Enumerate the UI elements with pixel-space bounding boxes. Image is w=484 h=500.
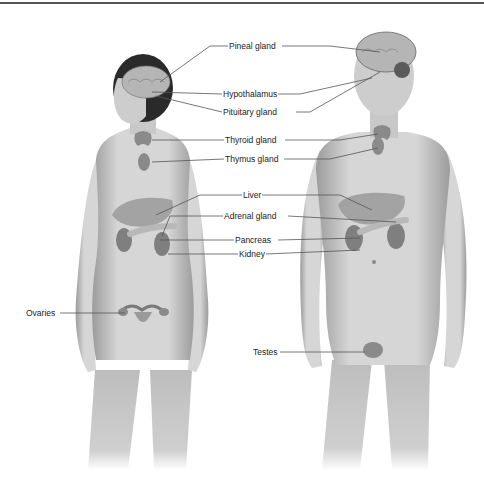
label-pancreas: Pancreas: [234, 235, 272, 245]
female-figure: [76, 54, 209, 470]
label-pituitary-gland: Pituitary gland: [222, 107, 278, 117]
label-kidney: Kidney: [238, 249, 266, 259]
label-hypothalamus: Hypothalamus: [222, 89, 278, 99]
label-adrenal-gland: Adrenal gland: [223, 211, 277, 221]
label-thyroid-gland: Thyroid gland: [224, 135, 278, 145]
label-thymus-gland: Thymus gland: [224, 154, 279, 164]
label-liver: Liver: [242, 190, 262, 200]
label-testes: Testes: [252, 347, 279, 357]
label-pineal-gland: Pineal gland: [228, 41, 277, 51]
label-ovaries: Ovaries: [25, 308, 56, 318]
male-figure: [300, 32, 466, 470]
